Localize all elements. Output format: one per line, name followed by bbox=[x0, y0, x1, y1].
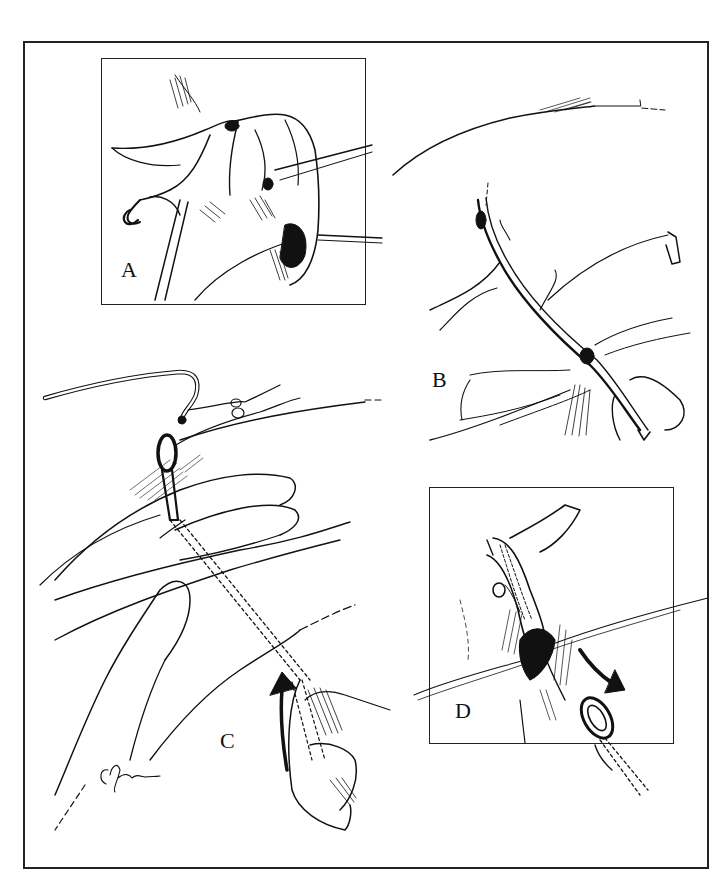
line-art bbox=[0, 0, 720, 884]
panel-label-c: C bbox=[220, 730, 235, 752]
panel-label-a: A bbox=[121, 259, 137, 281]
panel-c-illustration bbox=[40, 372, 390, 830]
panel-a-illustration bbox=[112, 75, 382, 300]
panel-label-d: D bbox=[455, 700, 471, 722]
panel-label-b: B bbox=[432, 369, 447, 391]
panel-d-illustration bbox=[414, 505, 708, 795]
artist-signature bbox=[101, 765, 160, 792]
surgical-illustration-figure: A B C D bbox=[0, 0, 720, 884]
